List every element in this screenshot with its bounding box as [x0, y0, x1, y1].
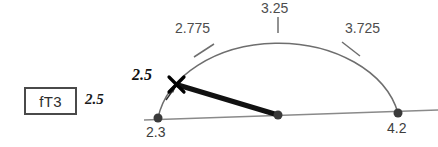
gauge-tick-label-2775: 2.775 — [175, 20, 210, 36]
gauge-tick-2775 — [194, 44, 214, 57]
gauge-pointer-label: 2.5 — [131, 66, 152, 83]
gauge-start-dot — [154, 114, 163, 123]
gauge-figure: fT3 2.5 2.775 3.25 3.725 2.3 4.2 — [0, 0, 438, 147]
gauge-end-dot — [394, 109, 403, 118]
gauge-start-label: 2.3 — [146, 124, 166, 140]
gauge-needle — [178, 85, 278, 115]
gauge-end-label: 4.2 — [387, 120, 407, 136]
gauge-pivot-dot — [274, 111, 283, 120]
gauge-arc — [158, 43, 398, 118]
gauge-tick-3725 — [342, 42, 360, 56]
gauge-tick-label-3725: 3.725 — [345, 20, 380, 36]
gauge-tick-label-325: 3.25 — [261, 0, 288, 16]
gauge-svg: 2.775 3.25 3.725 2.3 4.2 2.5 — [0, 0, 438, 147]
